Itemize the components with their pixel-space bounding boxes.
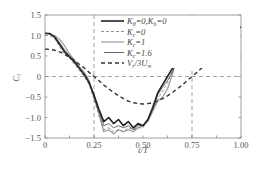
x-tick-label: 1.00 [234,140,249,150]
x-tick-label: 0.75 [185,140,200,150]
legend: Kθ=0,Kh=0Kc=0Kc=1Kc=1.6Vr/3U∞ [101,16,240,69]
x-axis-label: t/T [138,145,149,155]
y-axis-label-sub: l [16,74,22,76]
y-tick-label: 0 [37,72,41,82]
x-tick-label: 0 [43,140,47,150]
legend-label: Kc=1.6 [126,48,152,59]
svg-text:Cl: Cl [11,74,22,82]
y-tick-label: 1.5 [30,10,41,20]
y-tick-labels: 1.51.00.50−0.5−1.0−1.5 [26,10,41,143]
chart: 1.51.00.50−0.5−1.0−1.5 00.250.500.751.00… [0,0,262,172]
y-tick-label: −1.5 [26,133,41,143]
y-tick-label: 1.0 [30,31,41,41]
y-tick-label: −1.0 [26,113,41,123]
legend-label: Kθ=0,Kh=0 [126,16,167,27]
x-tick-label: 0.25 [87,140,102,150]
legend-label: Kc=1 [126,37,145,48]
legend-label: Kc=0 [126,27,146,38]
y-tick-label: 0.5 [30,51,41,61]
y-tick-label: −0.5 [26,92,41,102]
y-axis-label: Cl [11,74,22,82]
legend-background [104,16,240,68]
